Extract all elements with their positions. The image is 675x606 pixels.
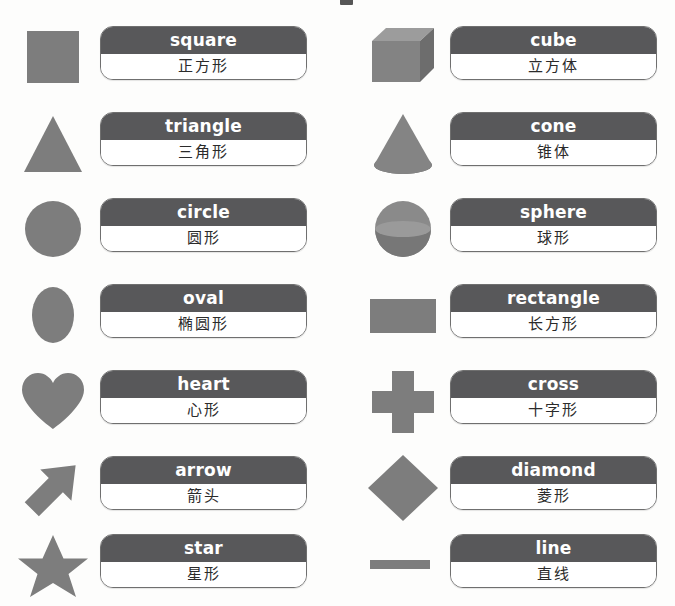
card-body: 箭头 xyxy=(101,484,306,509)
card-header: diamond xyxy=(451,457,656,484)
chinese-label: 三角形 xyxy=(178,145,229,160)
english-label: cross xyxy=(528,376,579,393)
triangle-shape-icon xyxy=(8,108,100,180)
label-card[interactable]: heart 心形 xyxy=(100,370,307,424)
english-label: line xyxy=(535,540,571,557)
card-header: triangle xyxy=(101,113,306,140)
card-header: heart xyxy=(101,371,306,398)
label-card[interactable]: diamond 菱形 xyxy=(450,456,657,510)
label-card[interactable]: cube 立方体 xyxy=(450,26,657,80)
cube-shape-icon xyxy=(358,22,450,94)
label-card[interactable]: circle 圆形 xyxy=(100,198,307,252)
card-header: cube xyxy=(451,27,656,54)
chinese-label: 心形 xyxy=(187,403,221,418)
english-label: sphere xyxy=(520,204,587,221)
chinese-label: 锥体 xyxy=(537,145,571,160)
english-label: diamond xyxy=(511,462,596,479)
entry-heart[interactable]: heart 心形 xyxy=(8,366,308,438)
entry-star[interactable]: star 星形 xyxy=(8,530,308,602)
entry-line[interactable]: line 直线 xyxy=(358,530,658,602)
english-label: circle xyxy=(177,204,230,221)
star-shape-icon xyxy=(8,530,100,602)
chinese-label: 菱形 xyxy=(537,489,571,504)
entry-circle[interactable]: circle 圆形 xyxy=(8,194,308,266)
oval-shape-icon xyxy=(8,280,100,352)
english-label: cube xyxy=(530,32,577,49)
card-header: cone xyxy=(451,113,656,140)
square-shape-icon xyxy=(8,22,100,94)
english-label: star xyxy=(184,540,223,557)
english-label: oval xyxy=(183,290,224,307)
sphere-shape-icon xyxy=(358,194,450,266)
card-header: star xyxy=(101,535,306,562)
card-body: 长方形 xyxy=(451,312,656,337)
label-card[interactable]: square 正方形 xyxy=(100,26,307,80)
english-label: heart xyxy=(177,376,230,393)
cone-shape-icon xyxy=(358,108,450,180)
card-body: 三角形 xyxy=(101,140,306,165)
chinese-label: 圆形 xyxy=(187,231,221,246)
english-label: square xyxy=(170,32,237,49)
english-label: cone xyxy=(530,118,576,135)
card-header: cross xyxy=(451,371,656,398)
label-card[interactable]: oval 椭圆形 xyxy=(100,284,307,338)
entry-square[interactable]: square 正方形 xyxy=(8,22,308,94)
chinese-label: 椭圆形 xyxy=(178,317,229,332)
label-card[interactable]: cone 锥体 xyxy=(450,112,657,166)
shapes-grid: square 正方形 cube 立方体 xyxy=(0,0,675,606)
card-body: 圆形 xyxy=(101,226,306,251)
chinese-label: 长方形 xyxy=(528,317,579,332)
english-label: arrow xyxy=(175,462,232,479)
chinese-label: 箭头 xyxy=(187,489,221,504)
entry-triangle[interactable]: triangle 三角形 xyxy=(8,108,308,180)
english-label: triangle xyxy=(165,118,242,135)
card-body: 心形 xyxy=(101,398,306,423)
card-header: circle xyxy=(101,199,306,226)
card-header: sphere xyxy=(451,199,656,226)
entry-cone[interactable]: cone 锥体 xyxy=(358,108,658,180)
english-label: rectangle xyxy=(507,290,600,307)
rectangle-shape-icon xyxy=(358,280,450,352)
card-body: 锥体 xyxy=(451,140,656,165)
label-card[interactable]: star 星形 xyxy=(100,534,307,588)
chinese-label: 直线 xyxy=(537,567,571,582)
card-body: 直线 xyxy=(451,562,656,587)
label-card[interactable]: line 直线 xyxy=(450,534,657,588)
circle-shape-icon xyxy=(8,194,100,266)
card-body: 立方体 xyxy=(451,54,656,79)
heart-shape-icon xyxy=(8,366,100,438)
card-header: square xyxy=(101,27,306,54)
label-card[interactable]: arrow 箭头 xyxy=(100,456,307,510)
chinese-label: 球形 xyxy=(537,231,571,246)
label-card[interactable]: cross 十字形 xyxy=(450,370,657,424)
entry-diamond[interactable]: diamond 菱形 xyxy=(358,452,658,524)
arrow-shape-icon xyxy=(8,452,100,524)
chinese-label: 十字形 xyxy=(528,403,579,418)
card-body: 球形 xyxy=(451,226,656,251)
label-card[interactable]: triangle 三角形 xyxy=(100,112,307,166)
chinese-label: 星形 xyxy=(187,567,221,582)
card-body: 椭圆形 xyxy=(101,312,306,337)
label-card[interactable]: sphere 球形 xyxy=(450,198,657,252)
diamond-shape-icon xyxy=(358,452,450,524)
card-body: 十字形 xyxy=(451,398,656,423)
cross-shape-icon xyxy=(358,366,450,438)
entry-cube[interactable]: cube 立方体 xyxy=(358,22,658,94)
entry-sphere[interactable]: sphere 球形 xyxy=(358,194,658,266)
label-card[interactable]: rectangle 长方形 xyxy=(450,284,657,338)
card-body: 星形 xyxy=(101,562,306,587)
card-header: oval xyxy=(101,285,306,312)
card-body: 正方形 xyxy=(101,54,306,79)
chinese-label: 正方形 xyxy=(178,59,229,74)
chinese-label: 立方体 xyxy=(528,59,579,74)
line-shape-icon xyxy=(358,530,450,602)
entry-cross[interactable]: cross 十字形 xyxy=(358,366,658,438)
card-header: rectangle xyxy=(451,285,656,312)
entry-rectangle[interactable]: rectangle 长方形 xyxy=(358,280,658,352)
card-header: line xyxy=(451,535,656,562)
entry-arrow[interactable]: arrow 箭头 xyxy=(8,452,308,524)
shapes-vocabulary-sheet: square 正方形 cube 立方体 xyxy=(0,0,675,606)
card-header: arrow xyxy=(101,457,306,484)
entry-oval[interactable]: oval 椭圆形 xyxy=(8,280,308,352)
card-body: 菱形 xyxy=(451,484,656,509)
